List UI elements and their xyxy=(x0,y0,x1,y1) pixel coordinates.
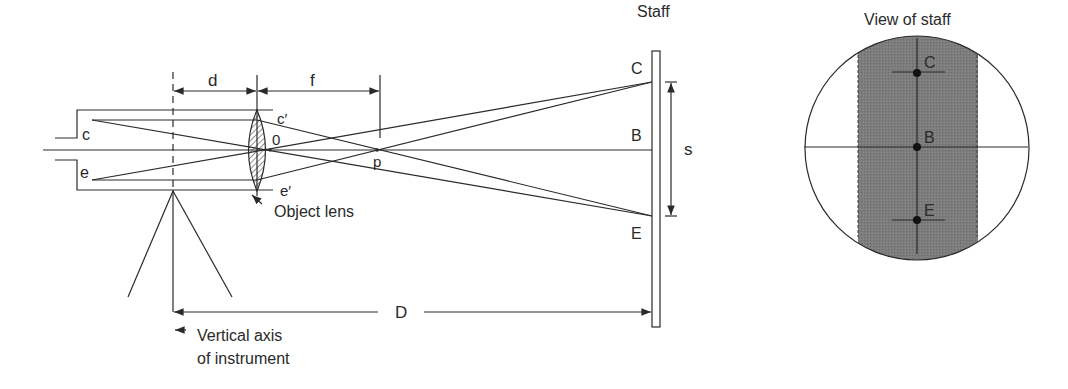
label-staff: Staff xyxy=(637,3,670,20)
label-E: E xyxy=(631,225,642,242)
point-C xyxy=(913,69,921,77)
label-f: f xyxy=(310,71,315,90)
point-B xyxy=(913,143,921,151)
label-s: s xyxy=(684,140,693,159)
view-label-B: B xyxy=(924,129,935,146)
view-label-C: C xyxy=(924,54,936,71)
view-of-staff-title: View of staff xyxy=(864,11,951,28)
label-vertical-axis-1: Vertical axis xyxy=(197,327,282,344)
label-o: 0 xyxy=(272,131,280,148)
telescope-tube xyxy=(43,110,652,190)
tacheometer-diagram: d f c e c′ 0 p e′ Object lens Staff C B … xyxy=(0,0,1068,389)
label-D: D xyxy=(395,303,407,322)
label-p: p xyxy=(373,153,381,170)
label-c-prime: c′ xyxy=(277,110,288,127)
staff xyxy=(652,51,660,327)
label-B: B xyxy=(631,127,642,144)
label-e: e xyxy=(80,164,89,181)
focal-point-p xyxy=(375,148,379,152)
view-of-staff xyxy=(804,30,1029,270)
view-label-E: E xyxy=(924,202,935,219)
label-d: d xyxy=(208,71,217,90)
label-object-lens: Object lens xyxy=(274,203,354,220)
point-E xyxy=(913,216,921,224)
label-vertical-axis-2: of instrument xyxy=(197,350,290,367)
label-c: c xyxy=(82,126,90,143)
optical-centre-o xyxy=(268,148,271,151)
object-lens-pointer xyxy=(252,195,262,204)
dimension-s xyxy=(665,82,677,216)
label-C: C xyxy=(631,60,643,77)
label-e-prime: e′ xyxy=(280,182,291,199)
tripod xyxy=(128,191,232,297)
